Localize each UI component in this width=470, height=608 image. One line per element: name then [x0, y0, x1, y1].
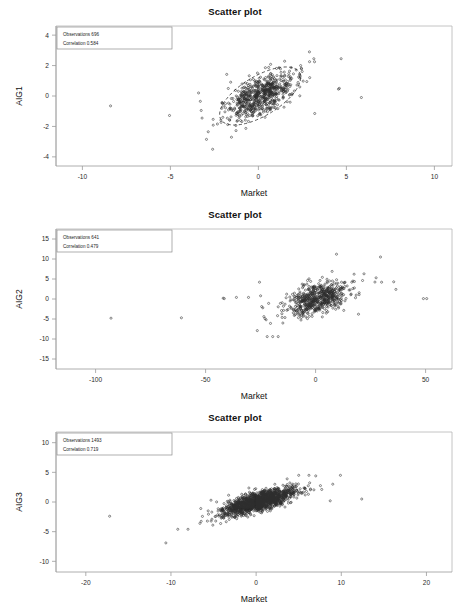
legend-panel: Observations 1493Correlation 0.719 — [57, 433, 172, 455]
y-tick-label: 15 — [42, 235, 50, 242]
y-tick-label: 0 — [45, 92, 49, 99]
legend-observations: Observations 1493 — [63, 438, 102, 443]
x-tick-label: -100 — [89, 376, 103, 383]
y-axis-label: AIG2 — [14, 289, 24, 309]
scatter-panel-1: Scatter plot -10-50510-4-2024MarketAIG1O… — [0, 0, 470, 202]
y-axis-label: AIG3 — [14, 492, 24, 512]
x-tick-label: -10 — [78, 173, 88, 180]
y-tick-label: -4 — [43, 153, 49, 160]
x-tick-label: 0 — [314, 376, 318, 383]
y-tick-label: -10 — [39, 558, 49, 565]
legend-box — [57, 230, 172, 252]
x-tick-label: 0 — [254, 579, 258, 586]
data-points-group — [110, 253, 428, 338]
x-tick-label: -10 — [166, 579, 176, 586]
scatter-plot-2: -100-50050-15-10-5051015MarketAIG2Observ… — [0, 203, 470, 405]
legend-correlation: Correlation 0.719 — [63, 447, 99, 452]
y-tick-label: -5 — [43, 528, 49, 535]
scatter-panel-2: Scatter plot -100-50050-15-10-5051015Mar… — [0, 203, 470, 405]
scatter-plot-1: -10-50510-4-2024MarketAIG1Observations 6… — [0, 0, 470, 202]
figure-page: Scatter plot -10-50510-4-2024MarketAIG1O… — [0, 0, 470, 608]
data-points-group — [110, 51, 363, 150]
x-tick-label: -5 — [167, 173, 173, 180]
y-tick-label: -15 — [39, 355, 49, 362]
y-tick-label: 10 — [42, 255, 50, 262]
y-tick-label: 5 — [45, 275, 49, 282]
legend-panel: Observations 696Correlation 0.584 — [57, 27, 172, 49]
legend-panel: Observations 641Correlation 0.479 — [57, 230, 172, 252]
legend-correlation: Correlation 0.584 — [63, 41, 99, 46]
x-tick-label: -50 — [201, 376, 211, 383]
data-points-group — [109, 474, 363, 544]
x-axis-label: Market — [241, 391, 268, 401]
y-tick-label: -10 — [39, 335, 49, 342]
x-axis-label: Market — [241, 188, 268, 198]
legend-box — [57, 27, 172, 49]
x-tick-label: 10 — [338, 579, 346, 586]
x-axis-label: Market — [241, 594, 268, 604]
scatter-plot-3: -20-1001020-10-50510MarketAIG3Observatio… — [0, 406, 470, 608]
x-tick-label: -20 — [81, 579, 91, 586]
legend-box — [57, 433, 172, 455]
y-tick-label: 5 — [45, 469, 49, 476]
legend-observations: Observations 696 — [63, 32, 99, 37]
legend-observations: Observations 641 — [63, 235, 99, 240]
x-tick-label: 5 — [345, 173, 349, 180]
x-tick-label: 20 — [423, 579, 431, 586]
scatter-panel-3: Scatter plot -20-1001020-10-50510MarketA… — [0, 406, 470, 608]
y-tick-label: 10 — [42, 439, 50, 446]
y-tick-label: -5 — [43, 315, 49, 322]
y-tick-label: 2 — [45, 62, 49, 69]
legend-correlation: Correlation 0.479 — [63, 244, 99, 249]
x-tick-label: 0 — [257, 173, 261, 180]
y-tick-label: 0 — [45, 498, 49, 505]
y-tick-label: 4 — [45, 32, 49, 39]
y-tick-label: -2 — [43, 123, 49, 130]
x-tick-label: 10 — [431, 173, 439, 180]
y-axis-label: AIG1 — [14, 86, 24, 106]
x-tick-label: 50 — [422, 376, 430, 383]
y-tick-label: 0 — [45, 295, 49, 302]
